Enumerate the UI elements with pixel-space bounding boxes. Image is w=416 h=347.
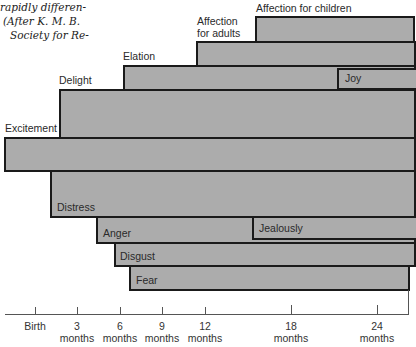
tick-12-months bbox=[205, 307, 206, 314]
bar-distress bbox=[50, 170, 416, 218]
figure-caption: rapidly differen- (After K. M. B. Societ… bbox=[0, 0, 89, 42]
tick-18-months bbox=[291, 305, 292, 314]
x-axis-right-edge bbox=[408, 290, 409, 315]
tick-label-24-value: 24 bbox=[347, 320, 407, 332]
tick-label-24-unit: months bbox=[347, 332, 407, 344]
label-fear: Fear bbox=[136, 274, 158, 286]
tick-24-months bbox=[377, 305, 378, 314]
tick-label-12-value: 12 bbox=[175, 320, 235, 332]
label-joy: Joy bbox=[345, 72, 361, 84]
tick-6-months bbox=[120, 307, 121, 314]
bar-disgust bbox=[114, 242, 416, 267]
tick-label-18-value: 18 bbox=[261, 320, 321, 332]
tick-9-months bbox=[162, 307, 163, 314]
tick-label-12-unit: months bbox=[175, 332, 235, 344]
label-excitement: Excitement bbox=[5, 122, 57, 134]
label-elation: Elation bbox=[123, 50, 155, 62]
bar-excitement bbox=[4, 137, 416, 172]
caption-line-2: (After K. M. B. bbox=[3, 14, 89, 28]
bar-affection-for-children bbox=[255, 16, 415, 44]
label-affection-for-adults-2: for adults bbox=[197, 27, 240, 39]
label-distress: Distress bbox=[57, 201, 95, 213]
label-disgust: Disgust bbox=[120, 250, 155, 262]
label-affection-for-adults-1: Affection bbox=[197, 15, 238, 27]
tick-label-12: 12 months bbox=[175, 320, 235, 344]
label-jealously: Jealously bbox=[259, 222, 303, 234]
bar-delight bbox=[59, 89, 416, 139]
bar-fear bbox=[129, 265, 410, 291]
caption-line-3: Society for Re- bbox=[10, 28, 89, 42]
label-anger: Anger bbox=[103, 227, 131, 239]
label-affection-for-children: Affection for children bbox=[256, 2, 352, 14]
bar-affection-for-adults bbox=[196, 41, 416, 68]
label-delight: Delight bbox=[59, 74, 92, 86]
tick-label-18-unit: months bbox=[261, 332, 321, 344]
tick-label-18: 18 months bbox=[261, 320, 321, 344]
caption-line-1: rapidly differen- bbox=[0, 0, 89, 14]
tick-3-months bbox=[77, 307, 78, 314]
x-axis-baseline bbox=[5, 314, 409, 315]
tick-birth bbox=[35, 307, 36, 314]
tick-label-24: 24 months bbox=[347, 320, 407, 344]
